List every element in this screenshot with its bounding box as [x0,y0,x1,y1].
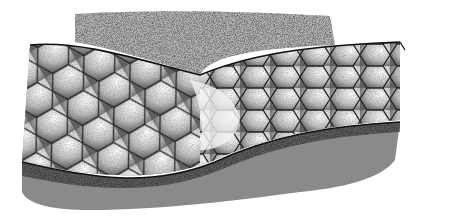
snake-scale-illustration [0,0,451,222]
